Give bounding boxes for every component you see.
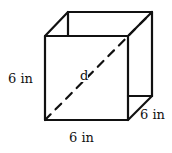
diagonal-label: d <box>80 68 88 83</box>
cube-diagram: d 6 in 6 in 6 in <box>0 0 172 153</box>
width-label: 6 in <box>69 130 95 145</box>
top-left-connector <box>45 12 68 36</box>
height-label: 6 in <box>8 71 34 86</box>
depth-label: 6 in <box>140 107 166 122</box>
